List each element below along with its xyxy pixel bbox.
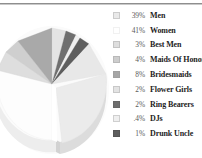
legend-swatch-icon (113, 41, 120, 48)
legend-swatch-icon (113, 27, 120, 34)
legend-percent: 3% (123, 40, 145, 49)
legend-item-drunk-uncle[interactable]: 1% Drunk Uncle (113, 126, 202, 141)
legend-label: Flower Girls (150, 85, 192, 94)
legend-label: Ring Bearers (150, 100, 194, 109)
top-divider-rule-shadow (0, 4, 202, 5)
legend-item-maids-of-honor[interactable]: 4% Maids Of Honor (113, 52, 202, 67)
legend-percent: 1% (123, 129, 145, 138)
legend-item-best-men[interactable]: 3% Best Men (113, 38, 202, 53)
legend-item-ring-bearers[interactable]: 2% Ring Bearers (113, 97, 202, 112)
pie-wall-gap (56, 140, 60, 154)
legend-swatch-icon (113, 115, 120, 122)
legend-label: Best Men (150, 40, 181, 49)
legend-swatch-icon (113, 86, 120, 93)
legend-percent: 41% (123, 26, 145, 35)
legend-percent: 2% (123, 85, 145, 94)
legend-percent: .4% (123, 114, 145, 123)
pie-graphic (0, 12, 110, 158)
legend-item-bridesmaids[interactable]: 8% Bridesmaids (113, 67, 202, 82)
pie-svg (0, 12, 110, 158)
legend-label: Men (150, 11, 165, 20)
legend-swatch-icon (113, 101, 120, 108)
legend-swatch-icon (113, 12, 120, 19)
legend-label: DJs (150, 114, 163, 123)
legend-swatch-icon (113, 71, 120, 78)
legend-percent: 8% (123, 70, 145, 79)
legend-item-men[interactable]: 39% Men (113, 8, 202, 23)
legend-item-flower-girls[interactable]: 2% Flower Girls (113, 82, 202, 97)
legend-label: Maids Of Honor (150, 55, 202, 64)
legend-label: Women (150, 26, 176, 35)
legend-percent: 39% (123, 11, 145, 20)
legend: 39% Men 41% Women 3% Best Men 4% Maids O… (113, 8, 202, 141)
legend-swatch-icon (113, 130, 120, 137)
legend-percent: 2% (123, 100, 145, 109)
legend-swatch-icon (113, 56, 120, 63)
legend-label: Drunk Uncle (150, 129, 193, 138)
legend-percent: 4% (123, 55, 145, 64)
pie-chart-figure: 39% Men 41% Women 3% Best Men 4% Maids O… (0, 0, 202, 158)
legend-label: Bridesmaids (150, 70, 192, 79)
legend-item-women[interactable]: 41% Women (113, 23, 202, 38)
legend-item-djs[interactable]: .4% DJs (113, 112, 202, 127)
